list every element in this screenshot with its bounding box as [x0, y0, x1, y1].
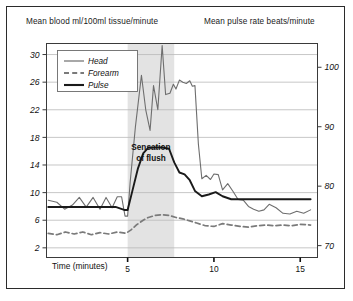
y-tick-label-right: 90 — [325, 122, 335, 132]
y-tick-label-right: 80 — [325, 181, 335, 191]
y-tick-label-left: 22 — [29, 105, 40, 115]
y-tick-label-left: 26 — [29, 77, 40, 87]
y-tick-label-right: 70 — [325, 241, 335, 251]
y-tick-label-right: 100 — [325, 62, 340, 72]
x-tick-label: 5 — [125, 264, 130, 274]
y-axis-ticks-left: 26101418222630 — [29, 50, 47, 253]
x-tick-label: 15 — [296, 264, 306, 274]
series-forearm — [48, 215, 310, 235]
series-line-forearm — [48, 215, 310, 235]
legend-label-head: Head — [88, 57, 108, 66]
y-tick-label-left: 2 — [34, 243, 40, 253]
flush-annotation-line1: Sensation — [131, 143, 170, 152]
chart-svg: 26101418222630 708090100 51015 Sensation… — [0, 0, 353, 301]
x-tick-label: 10 — [209, 264, 219, 274]
y-tick-label-left: 14 — [30, 160, 40, 170]
x-axis-ticks: 51015 — [125, 258, 305, 274]
flush-annotation-line2: of flush — [136, 154, 166, 163]
x-axis-label: Time (minutes) — [52, 261, 108, 271]
y-tick-label-left: 18 — [30, 133, 40, 143]
y-tick-label-left: 6 — [35, 215, 40, 225]
chart-legend: HeadForearmPulse — [58, 51, 138, 92]
legend-label-pulse: Pulse — [88, 81, 109, 90]
figure-container: Mean blood ml/100ml tissue/minute Mean p… — [0, 0, 353, 301]
plot-area: 26101418222630 708090100 51015 Sensation… — [0, 0, 353, 301]
y-tick-label-left: 30 — [30, 50, 40, 60]
series-pulse — [48, 148, 310, 210]
y-axis-ticks-right: 708090100 — [318, 62, 340, 250]
y-tick-label-left: 10 — [30, 188, 40, 198]
legend-label-forearm: Forearm — [88, 69, 119, 78]
series-line-pulse — [48, 148, 310, 210]
